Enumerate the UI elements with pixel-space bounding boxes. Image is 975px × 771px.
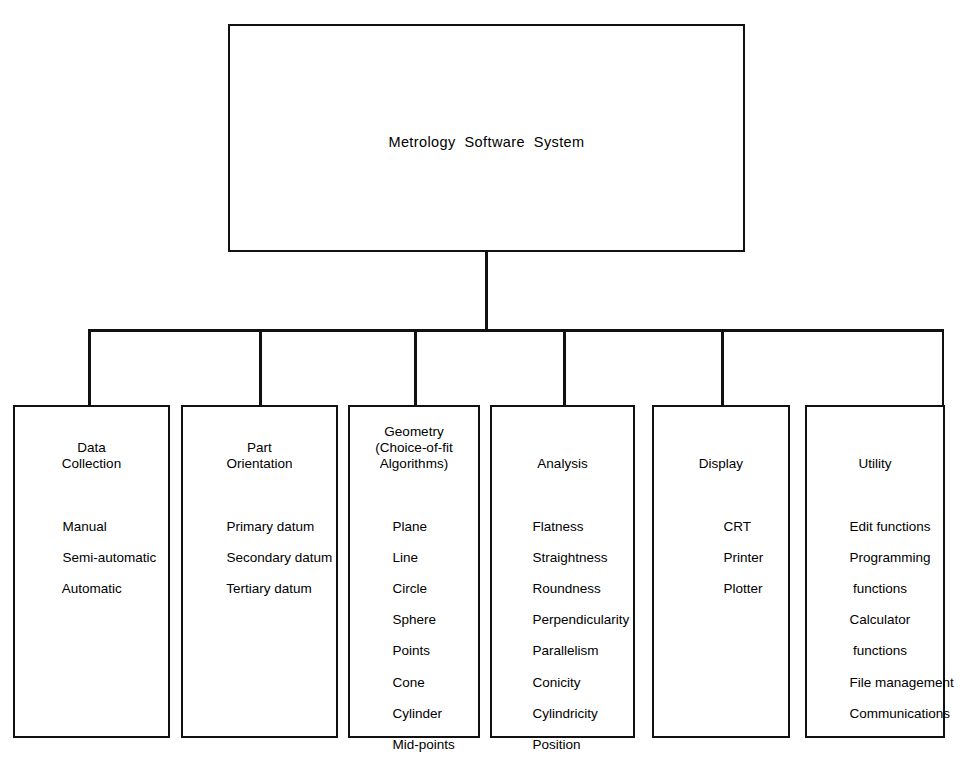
list-item: File management	[850, 675, 954, 690]
list-item: Conicity	[533, 675, 581, 690]
connector-drop-2	[259, 329, 262, 407]
node-title-utility: Utility	[807, 456, 943, 472]
node-geometry: Geometry (Choice-of-fit Algorithms) Plan…	[348, 405, 480, 738]
list-item: Cylinder	[393, 706, 443, 721]
list-item: Plotter	[724, 581, 763, 596]
list-item: CRT	[724, 519, 752, 534]
connector-drop-1	[88, 329, 91, 407]
list-item: Printer	[724, 550, 764, 565]
node-title-line: (Choice-of-fit	[350, 440, 478, 456]
list-item: Flatness	[533, 519, 584, 534]
node-title-line: Geometry	[350, 424, 478, 440]
node-title-line: Part	[183, 440, 336, 456]
node-title-line: Orientation	[183, 456, 336, 472]
list-item: Plane	[393, 519, 428, 534]
list-item: Sphere	[393, 612, 437, 627]
list-item: Mid-points	[393, 737, 455, 752]
list-item: functions	[827, 643, 954, 659]
list-item: Cone	[393, 675, 425, 690]
node-list-geometry: Plane Line Circle Sphere Points Cone Cyl…	[370, 503, 469, 771]
node-list-analysis: Flatness Straightness Roundness Perpendi…	[510, 503, 629, 771]
list-item: Programming	[850, 550, 931, 565]
list-item: Semi-automatic	[63, 550, 157, 565]
list-item: Points	[393, 643, 431, 658]
node-title-analysis: Analysis	[492, 456, 633, 472]
list-item: Communications	[850, 706, 951, 721]
list-item: functions	[827, 581, 954, 597]
list-item: Position	[533, 737, 581, 752]
connector-root-stem	[485, 250, 488, 331]
node-list-data-collection: Manual Semi-automatic Automatic	[40, 503, 156, 612]
node-display: Display CRT Printer Plotter	[652, 405, 790, 738]
node-title-line: Utility	[807, 456, 943, 472]
node-title-line: Display	[654, 456, 788, 472]
node-title-display: Display	[654, 456, 788, 472]
list-item: Parallelism	[533, 643, 599, 658]
node-title-geometry: Geometry (Choice-of-fit Algorithms)	[350, 424, 478, 472]
list-item: Calculator	[850, 612, 911, 627]
node-title-line: Data	[15, 440, 168, 456]
node-title-line: Collection	[15, 456, 168, 472]
node-utility: Utility Edit functions Programming funct…	[805, 405, 945, 738]
list-item: Circle	[393, 581, 428, 596]
connector-drop-3	[414, 329, 417, 407]
list-item: Perpendicularity	[533, 612, 630, 627]
list-item: Automatic	[62, 581, 122, 596]
list-item: Cylindricity	[533, 706, 598, 721]
connector-drop-6	[942, 329, 945, 407]
root-node-title: Metrology Software System	[230, 134, 743, 150]
node-data-collection: Data Collection Manual Semi-automatic Au…	[13, 405, 170, 738]
connector-drop-4	[563, 329, 566, 407]
list-item: Straightness	[533, 550, 608, 565]
node-list-utility: Edit functions Programming functions Cal…	[827, 503, 954, 737]
list-item: Line	[393, 550, 419, 565]
node-list-display: CRT Printer Plotter	[701, 503, 763, 612]
node-title-line: Algorithms)	[350, 456, 478, 472]
connector-drop-5	[721, 329, 724, 407]
connector-horizontal-bus	[88, 329, 944, 332]
node-list-part-orientation: Primary datum Secondary datum Tertiary d…	[204, 503, 332, 612]
list-item: Tertiary datum	[226, 581, 312, 596]
node-title-line: Analysis	[492, 456, 633, 472]
node-title-data-collection: Data Collection	[15, 440, 168, 472]
list-item: Edit functions	[850, 519, 931, 534]
node-analysis: Analysis Flatness Straightness Roundness…	[490, 405, 635, 738]
list-item: Roundness	[533, 581, 601, 596]
list-item: Secondary datum	[227, 550, 333, 565]
node-title-part-orientation: Part Orientation	[183, 440, 336, 472]
list-item: Manual	[63, 519, 107, 534]
root-node-metrology-software-system: Metrology Software System	[228, 24, 745, 252]
node-part-orientation: Part Orientation Primary datum Secondary…	[181, 405, 338, 738]
list-item: Primary datum	[227, 519, 315, 534]
metrology-software-system-diagram: Metrology Software System Data Collectio…	[0, 0, 975, 771]
